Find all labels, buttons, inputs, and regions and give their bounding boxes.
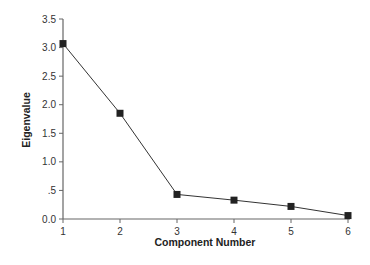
scree-plot: 0.0.51.01.52.02.53.03.5 123456 Component… — [0, 0, 370, 265]
x-axis: 123456 — [60, 219, 351, 237]
square-marker-icon — [117, 110, 124, 117]
square-marker-icon — [174, 191, 181, 198]
x-tick-label: 1 — [60, 226, 66, 237]
square-marker-icon — [288, 203, 295, 210]
y-tick-label: 3.0 — [42, 42, 56, 53]
eigenvalue-line — [63, 44, 348, 216]
data-markers — [60, 40, 352, 219]
x-tick-label: 6 — [345, 226, 351, 237]
square-marker-icon — [231, 197, 238, 204]
y-tick-label: 1.5 — [42, 128, 56, 139]
x-axis-title: Component Number — [155, 236, 256, 248]
y-tick-label: 2.0 — [42, 99, 56, 110]
square-marker-icon — [60, 40, 67, 47]
y-tick-label: 2.5 — [42, 71, 56, 82]
y-tick-label: 1.0 — [42, 156, 56, 167]
y-tick-label: 0.0 — [42, 214, 56, 225]
x-tick-label: 2 — [117, 226, 123, 237]
y-tick-label: 3.5 — [42, 14, 56, 25]
x-tick-label: 5 — [288, 226, 294, 237]
y-axis-title: Eigenvalue — [20, 92, 32, 148]
square-marker-icon — [345, 212, 352, 219]
y-tick-label: .5 — [48, 185, 57, 196]
